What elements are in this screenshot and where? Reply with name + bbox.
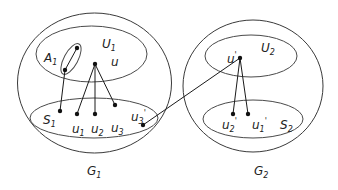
diagram-canvas: U1 A1 u S1 u1 u2 u3 u3' G1 U2 u' u2' u1'… bbox=[0, 0, 338, 190]
edge-u-to-u3 bbox=[95, 64, 115, 105]
label-vertex-u: u bbox=[111, 55, 119, 69]
label-g2: G2 bbox=[254, 164, 268, 180]
label-vertex-u1-prime: u1' bbox=[252, 117, 267, 134]
edge-a1-internal bbox=[65, 48, 77, 70]
vertex-u-prime bbox=[238, 56, 242, 60]
label-u1-set: U1 bbox=[102, 37, 116, 53]
label-u2-set: U2 bbox=[261, 41, 275, 57]
label-g1: G1 bbox=[87, 164, 101, 180]
label-vertex-u2-prime: u2' bbox=[222, 117, 237, 134]
vertex-u1 bbox=[75, 112, 79, 116]
label-vertex-u-prime: u' bbox=[227, 51, 237, 66]
vertex-u2-prime bbox=[231, 112, 235, 116]
label-vertex-u2: u2 bbox=[91, 122, 104, 138]
edge-a1-to-s1 bbox=[60, 70, 65, 111]
label-vertex-u3-prime: u3' bbox=[131, 109, 146, 126]
vertex-u1-prime bbox=[246, 112, 250, 116]
label-vertex-u1: u1 bbox=[72, 122, 85, 138]
edge-uprime-to-u1prime bbox=[240, 58, 248, 114]
vertex-u2 bbox=[93, 112, 97, 116]
graph-g2-boundary bbox=[183, 20, 323, 152]
vertex-u bbox=[93, 62, 97, 66]
edge-uprime-to-u3prime bbox=[143, 58, 240, 125]
vertex-s1-left bbox=[58, 109, 62, 113]
label-a1-set: A1 bbox=[43, 51, 57, 67]
label-s1-set: S1 bbox=[43, 113, 56, 129]
vertex-a1-bottom bbox=[63, 68, 67, 72]
edge-u-to-u1 bbox=[77, 64, 95, 114]
vertex-a1-top bbox=[75, 46, 79, 50]
set-u2-ellipse bbox=[205, 35, 297, 77]
label-s2-set: S2 bbox=[280, 118, 293, 134]
edge-uprime-to-u2prime bbox=[233, 58, 240, 114]
label-vertex-u3: u3 bbox=[111, 121, 124, 137]
vertex-u3 bbox=[113, 103, 117, 107]
